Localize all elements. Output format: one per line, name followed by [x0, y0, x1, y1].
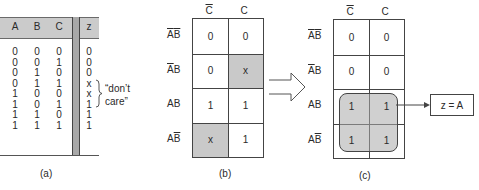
truth-table-cell: 1	[8, 121, 22, 131]
truth-table-cell: 1	[30, 110, 44, 120]
truth-table-cell: 0	[30, 100, 44, 110]
truth-table-cell: 1	[8, 89, 22, 99]
truth-table-cell: 0	[30, 58, 44, 68]
col-label-c: C	[382, 6, 389, 17]
result-expression: z = A	[441, 100, 464, 111]
row-label: AB	[167, 64, 180, 75]
header-a: A	[8, 22, 22, 32]
row-label-b: B	[315, 99, 322, 110]
kmap-cell: 0	[193, 54, 228, 89]
truth-table-cell: 0	[52, 68, 66, 78]
truth-table-cell: 0	[8, 68, 22, 78]
header-b: B	[30, 22, 44, 32]
row-label-a: A	[167, 64, 174, 75]
kmap-cell: 0	[334, 55, 369, 90]
truth-table-cell: 0	[52, 47, 66, 57]
row-label: AB	[167, 133, 180, 144]
row-label-a: A	[308, 134, 315, 145]
dont-care-line1: “don’t	[105, 84, 130, 94]
truth-table-cell: 1	[30, 68, 44, 78]
kmap-cell: 1	[334, 124, 369, 159]
dont-care-line2: care”	[105, 97, 128, 107]
row-label: AB	[308, 99, 321, 110]
kmap-cell: 1	[369, 124, 404, 159]
header-z: z	[82, 22, 96, 32]
row-label-b: B	[174, 64, 181, 75]
truth-table-cell: 1	[82, 110, 96, 120]
truth-table-cell: 1	[8, 100, 22, 110]
caption-c: (c)	[359, 170, 371, 181]
kmap-cell: 0	[334, 20, 369, 55]
kmap-cell: x	[193, 123, 228, 158]
result-arrow-icon	[395, 100, 431, 110]
truth-table-cell: 0	[52, 89, 66, 99]
truth-table-cell: 1	[30, 79, 44, 89]
truth-table-cell: 1	[52, 121, 66, 131]
kmap-cell: 1	[193, 88, 228, 123]
truth-table-cell: 0	[52, 110, 66, 120]
kmap-cell: 1	[228, 88, 263, 123]
kmap-cell: 0	[193, 19, 228, 54]
truth-table-cell: 1	[30, 121, 44, 131]
truth-table-cell: 1	[82, 121, 96, 131]
kmap-cell: 0	[369, 55, 404, 90]
kmap-cell: 1	[228, 123, 263, 158]
truth-table-cell: 0	[82, 58, 96, 68]
row-label-b: B	[315, 134, 322, 145]
truth-table-cell: 0	[8, 79, 22, 89]
caption-b: (b)	[219, 168, 231, 179]
result-box: z = A	[430, 94, 474, 116]
row-label-a: A	[167, 29, 174, 40]
truth-table-cell: 0	[30, 89, 44, 99]
row-label-b: B	[174, 29, 181, 40]
truth-table-cell: 1	[8, 110, 22, 120]
row-label-a: A	[308, 99, 315, 110]
truth-table-cell: 1	[52, 58, 66, 68]
row-label: AB	[308, 134, 321, 145]
truth-table-cell: 0	[8, 47, 22, 57]
truth-table-cell: 1	[52, 79, 66, 89]
truth-table-bottom-rule	[0, 155, 99, 156]
row-label-b: B	[174, 98, 181, 109]
row-label-a: A	[308, 30, 315, 41]
truth-table-divider	[72, 17, 80, 155]
col-label-c-bar: C	[347, 6, 354, 17]
row-label-b: B	[174, 133, 181, 144]
truth-table-cell: 0	[8, 58, 22, 68]
row-label-a: A	[167, 98, 174, 109]
truth-table-cell: 1	[52, 100, 66, 110]
header-c: C	[52, 22, 66, 32]
kmap_b-grid: 000x11x1	[192, 18, 264, 158]
row-label: AB	[167, 29, 180, 40]
hollow-arrow-icon	[266, 70, 308, 104]
truth-table-cell: 0	[30, 47, 44, 57]
row-label-b: B	[315, 30, 322, 41]
row-label: AB	[308, 30, 321, 41]
row-label-a: A	[308, 65, 315, 76]
kmap-cell: 1	[334, 89, 369, 124]
caption-a: (a)	[40, 168, 52, 179]
truth-table-cell: 0	[82, 47, 96, 57]
kmap-cell: 0	[228, 19, 263, 54]
brace-icon	[94, 79, 104, 109]
row-label-b: B	[315, 65, 322, 76]
col-label-c-bar: C	[206, 5, 213, 16]
kmap-cell: x	[228, 54, 263, 89]
row-label-a: A	[167, 133, 174, 144]
col-label-c: C	[241, 5, 248, 16]
kmap-cell: 0	[369, 20, 404, 55]
row-label: AB	[167, 98, 180, 109]
truth-table-cell: 0	[82, 68, 96, 78]
row-label: AB	[308, 65, 321, 76]
